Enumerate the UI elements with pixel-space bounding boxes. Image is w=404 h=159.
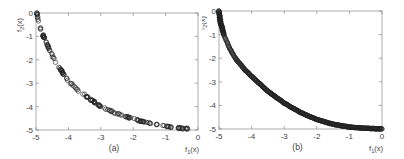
y-tick-label: -4 xyxy=(26,103,34,112)
y-axis-label: f2(x) xyxy=(202,16,208,30)
x-axis-label: f1(x) xyxy=(369,144,383,154)
x-tick-label: -1 xyxy=(162,133,170,142)
y-tick-label: -4 xyxy=(209,101,217,110)
scatter-plot-a: -5-4-3-2-100-1-2-3-4-5f2(x)f1(x)(a) xyxy=(0,0,202,159)
y-tick-label: -2 xyxy=(26,56,34,65)
x-tick-label: -1 xyxy=(346,132,354,141)
y-axis-label: f2(x) xyxy=(15,18,25,32)
data-points xyxy=(34,11,189,132)
x-tick-label: -5 xyxy=(215,132,223,141)
chart-panel-b: -5-4-3-2-100-1-2-3-4-5f2(x)f1(x)(b) xyxy=(202,0,404,159)
x-tick-label: -4 xyxy=(65,133,73,142)
y-tick-label: -3 xyxy=(209,78,217,87)
y-tick-label: -1 xyxy=(26,32,34,41)
x-tick-label: -3 xyxy=(97,133,105,142)
panel-label: (a) xyxy=(109,143,120,153)
y-tick-label: -3 xyxy=(26,79,34,88)
x-tick-label: 0 xyxy=(380,132,385,141)
y-tick-label: 0 xyxy=(29,9,34,18)
panel-label: (b) xyxy=(292,142,303,152)
x-axis-label: f1(x) xyxy=(185,145,199,155)
y-tick-label: 0 xyxy=(212,7,217,16)
x-tick-label: -3 xyxy=(281,132,289,141)
x-tick-label: 0 xyxy=(196,133,201,142)
x-tick-label: -2 xyxy=(313,132,321,141)
y-tick-label: -2 xyxy=(209,54,217,63)
x-tick-label: -4 xyxy=(248,132,256,141)
scatter-plot-b: -5-4-3-2-100-1-2-3-4-5f2(x)f1(x)(b) xyxy=(202,0,404,159)
x-tick-label: -5 xyxy=(32,133,40,142)
y-tick-label: -5 xyxy=(209,125,217,134)
y-tick-label: -1 xyxy=(209,31,217,40)
chart-panel-a: -5-4-3-2-100-1-2-3-4-5f2(x)f1(x)(a) xyxy=(0,0,202,159)
data-points xyxy=(216,9,384,132)
x-tick-label: -2 xyxy=(130,133,138,142)
y-tick-label: -5 xyxy=(26,126,34,135)
